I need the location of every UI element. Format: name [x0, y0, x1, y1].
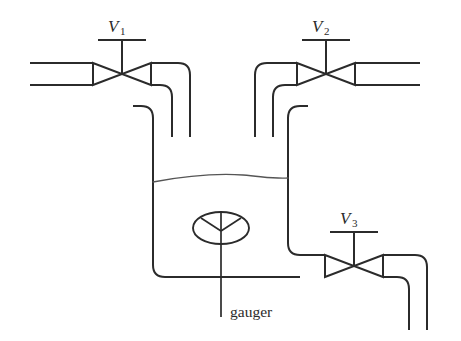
background	[0, 0, 461, 341]
gauger-label: gauger	[230, 303, 273, 320]
v2-label-subscript: 2	[324, 25, 330, 37]
v1-label-subscript: 1	[120, 25, 126, 37]
v3-label-subscript: 3	[352, 217, 358, 229]
piping-diagram-svg: V 1 V 2	[0, 0, 461, 341]
diagram-canvas: V 1 V 2	[0, 0, 461, 341]
